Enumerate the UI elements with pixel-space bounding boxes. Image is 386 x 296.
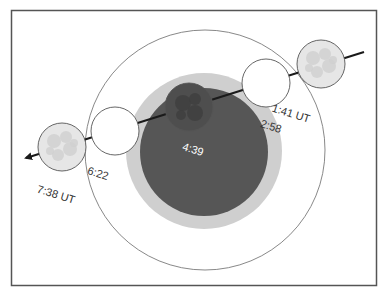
moon-3 (165, 83, 213, 131)
moon-4 (91, 107, 139, 155)
moon-5 (38, 123, 86, 171)
moon-1 (297, 40, 345, 88)
moon-2 (242, 59, 290, 107)
lunar-eclipse-diagram: 1:41 UT2:584:396:227:38 UT (0, 0, 386, 296)
